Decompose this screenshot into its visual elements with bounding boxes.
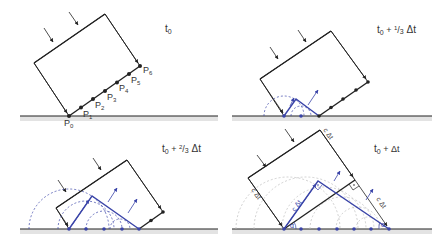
ray-left bbox=[248, 178, 282, 226]
reflected-arrow bbox=[108, 188, 117, 202]
ray-left bbox=[34, 63, 67, 113]
ray-right bbox=[127, 160, 161, 209]
panel-t0: P0 P1 P2 P3 P4 P5 P6 t0 bbox=[20, 12, 218, 129]
huygens-arc-gray bbox=[356, 217, 380, 229]
incident-arrow-2 bbox=[298, 30, 306, 42]
ray-right bbox=[320, 130, 353, 177]
reflected-arrow bbox=[308, 90, 318, 105]
incident-arrow-1 bbox=[270, 47, 278, 59]
label-p3: P3 bbox=[107, 92, 117, 103]
reflected-arrow bbox=[366, 189, 373, 200]
c-dt-label-top: c Δt bbox=[322, 127, 335, 141]
ray-left bbox=[260, 79, 283, 113]
label-p2: P2 bbox=[95, 100, 105, 111]
ground-shade bbox=[20, 116, 218, 121]
ground-shade bbox=[232, 229, 432, 234]
c-dt-label-right: c Δt bbox=[375, 196, 388, 210]
huygens-diagram: P0 P1 P2 P3 P4 P5 P6 t0 bbox=[0, 0, 448, 249]
reflected-wavefront bbox=[284, 99, 319, 116]
label-p1: P1 bbox=[83, 109, 93, 120]
huygens-arc-gray bbox=[254, 177, 358, 229]
incident-arrow-2 bbox=[285, 129, 294, 142]
panel-t0-plus-one-third: t0 + 1/3 Δt bbox=[232, 24, 432, 121]
alpha-label-left: α bbox=[290, 222, 294, 229]
label-p4: P4 bbox=[119, 83, 129, 94]
incident-arrow-2 bbox=[69, 12, 78, 25]
c-dt-label-left: c Δt bbox=[250, 187, 263, 201]
time-label-t0-plus-two-thirds: t0 + 2/3 Δt bbox=[162, 143, 201, 155]
wavefront bbox=[34, 14, 105, 63]
incident-arrow-1 bbox=[257, 155, 266, 167]
alpha-label-right: α bbox=[381, 221, 385, 228]
incident-arrow-1 bbox=[44, 28, 53, 42]
reflected-arrow bbox=[72, 200, 89, 225]
panel-t0-plus-dt: α α c Δt c Δt c Δt c Δt t0 + Δt bbox=[232, 127, 432, 234]
ray-right bbox=[331, 31, 366, 79]
ray-left bbox=[56, 208, 68, 226]
time-label-t0-plus-one-third: t0 + 1/3 Δt bbox=[377, 24, 416, 36]
time-label-t0-plus-dt: t0 + Δt bbox=[374, 143, 400, 155]
huygens-arc bbox=[29, 189, 109, 229]
wavefront bbox=[260, 31, 331, 79]
wave-outline bbox=[56, 160, 163, 229]
panel-t0-plus-two-thirds: t0 + 2/3 Δt bbox=[20, 143, 218, 234]
incident-arrow-2 bbox=[93, 158, 101, 170]
wavefront bbox=[56, 160, 127, 208]
ground-shade bbox=[232, 116, 432, 121]
wavefront bbox=[248, 130, 320, 178]
ray-right bbox=[105, 14, 138, 63]
ground-shade bbox=[20, 229, 218, 234]
huygens-arc bbox=[264, 96, 304, 116]
reflected-arrow bbox=[128, 199, 137, 213]
time-label-t0: t0 bbox=[165, 23, 172, 35]
angle-arc-alpha-left bbox=[294, 222, 296, 229]
wave-outline bbox=[34, 14, 140, 116]
label-p6: P6 bbox=[143, 65, 153, 76]
wave-outline bbox=[248, 130, 355, 229]
label-p5: P5 bbox=[131, 75, 141, 86]
reflected-arrow bbox=[334, 171, 340, 181]
